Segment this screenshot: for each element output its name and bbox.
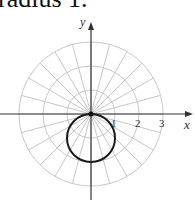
y-arrow-icon bbox=[88, 22, 94, 30]
x-axis-label: x bbox=[183, 117, 190, 132]
origin-point bbox=[89, 112, 94, 117]
polar-graph: 1 2 3 x y bbox=[0, 0, 195, 205]
tick-label-1: 1 bbox=[111, 117, 117, 129]
tick-label-2: 2 bbox=[135, 117, 141, 129]
y-axis-label: y bbox=[79, 15, 86, 29]
tick-label-3: 3 bbox=[159, 117, 165, 129]
